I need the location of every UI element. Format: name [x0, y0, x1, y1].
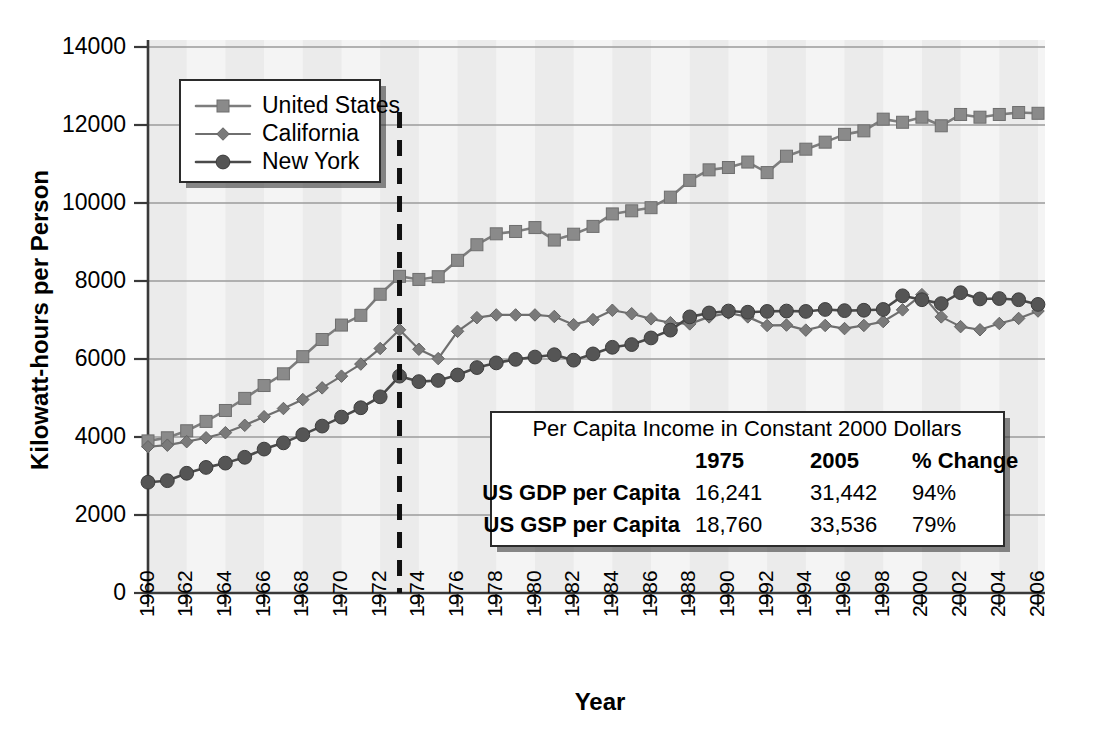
y-tick-label: 12000: [62, 111, 126, 137]
x-tick-label: 2004: [986, 570, 1009, 617]
y-tick-label: 6000: [75, 345, 126, 371]
y-tick-label: 8000: [75, 267, 126, 293]
data-point: [412, 375, 426, 389]
x-tick-label: 1990: [715, 570, 738, 617]
data-point: [335, 410, 349, 424]
data-point: [722, 162, 734, 174]
data-point: [741, 305, 755, 319]
y-axis-title: Kilowatt-hours per Person: [26, 170, 53, 470]
data-point: [993, 108, 1005, 120]
data-point: [916, 111, 928, 123]
data-point: [896, 289, 910, 303]
data-point: [992, 292, 1006, 306]
data-point: [664, 191, 676, 203]
line-chart: 02000400060008000100001200014000 1960196…: [0, 0, 1110, 744]
data-point: [548, 234, 560, 246]
data-point: [974, 111, 986, 123]
inset-title: Per Capita Income in Constant 2000 Dolla…: [532, 416, 961, 441]
data-point: [684, 174, 696, 186]
data-point: [876, 303, 890, 317]
data-point: [355, 309, 367, 321]
data-point: [238, 450, 252, 464]
inset-row-label: US GSP per Capita: [484, 512, 681, 537]
data-point: [1032, 107, 1044, 119]
inset-cell: 16,241: [695, 480, 762, 505]
y-tick-label: 2000: [75, 501, 126, 527]
data-point: [490, 228, 502, 240]
legend-marker-square-icon: [217, 100, 229, 112]
chart-container: 02000400060008000100001200014000 1960196…: [0, 0, 1110, 744]
data-point: [1031, 298, 1045, 312]
inset-cell: 18,760: [695, 512, 762, 537]
data-point: [373, 390, 387, 404]
x-tick-label: 1986: [638, 570, 661, 617]
data-point: [897, 116, 909, 128]
data-point: [160, 474, 174, 488]
data-point: [431, 374, 445, 388]
data-point: [258, 380, 270, 392]
x-tick-label: 1964: [212, 570, 235, 617]
inset-cell: 33,536: [810, 512, 877, 537]
data-point: [471, 239, 483, 251]
data-point: [1012, 293, 1026, 307]
data-point: [606, 208, 618, 220]
data-point: [199, 461, 213, 475]
data-point: [645, 202, 657, 214]
data-point: [722, 304, 736, 318]
data-point: [644, 331, 658, 345]
data-point: [316, 334, 328, 346]
chart-legend[interactable]: United StatesCaliforniaNew York: [180, 80, 400, 188]
legend-label: New York: [262, 148, 360, 174]
inset-row-label: US GDP per Capita: [482, 480, 680, 505]
x-tick-label: 2000: [908, 570, 931, 617]
x-tick-label: 1992: [754, 570, 777, 617]
x-tick-label: 1968: [289, 570, 312, 617]
data-point: [954, 286, 968, 300]
data-point: [838, 304, 852, 318]
data-point: [760, 305, 774, 319]
x-tick-label: 1996: [831, 570, 854, 617]
data-point: [625, 338, 639, 352]
data-point: [413, 273, 425, 285]
data-point: [702, 306, 716, 320]
data-point: [568, 228, 580, 240]
data-point: [239, 392, 251, 404]
data-point: [547, 348, 561, 362]
data-point: [277, 368, 289, 380]
data-point: [780, 304, 794, 318]
data-point: [934, 297, 948, 311]
data-point: [257, 442, 271, 456]
x-tick-label: 1980: [522, 570, 545, 617]
data-point: [586, 347, 600, 361]
data-point: [858, 125, 870, 137]
data-point: [799, 305, 813, 319]
data-point: [489, 356, 503, 370]
data-point: [218, 456, 232, 470]
data-point: [141, 475, 155, 489]
x-tick-label: 1974: [405, 570, 428, 617]
data-point: [742, 156, 754, 168]
inset-cell: 94%: [912, 480, 956, 505]
data-point: [470, 361, 484, 375]
data-point: [509, 352, 523, 366]
data-point: [528, 350, 542, 364]
data-point: [200, 415, 212, 427]
data-point: [297, 351, 309, 363]
inset-cell: 31,442: [810, 480, 877, 505]
data-point: [529, 222, 541, 234]
data-point: [451, 368, 465, 382]
data-point: [877, 113, 889, 125]
legend-marker-circle-icon: [216, 155, 230, 169]
x-tick-label: 1978: [483, 570, 506, 617]
data-point: [780, 150, 792, 162]
data-point: [277, 436, 291, 450]
data-point: [703, 164, 715, 176]
data-point: [839, 128, 851, 140]
x-tick-label: 1960: [135, 570, 158, 617]
data-point: [683, 310, 697, 324]
data-point: [973, 292, 987, 306]
data-point: [354, 401, 368, 415]
data-point: [219, 404, 231, 416]
x-tick-label: 1984: [599, 570, 622, 617]
inset-column-header: % Change: [912, 448, 1018, 473]
